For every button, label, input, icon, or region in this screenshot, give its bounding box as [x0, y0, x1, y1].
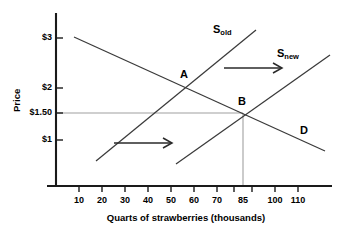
supply-old-curve-line [96, 30, 256, 161]
x-tick-label-30: 30 [115, 196, 135, 205]
demand-curve-label: D [300, 125, 308, 136]
supply-demand-chart: $3 $2 $1.50 $1 Price 10 20 30 40 50 60 7… [0, 0, 337, 239]
supply-old-curve-label-sub: old [220, 28, 231, 37]
x-tick-label-85: 85 [233, 196, 253, 205]
x-tick-label-70: 70 [207, 196, 227, 205]
y-tick-label-2: $2 [18, 83, 52, 92]
y-tick-label-1: $1 [18, 135, 52, 144]
supply-new-curve-label-sub: new [284, 52, 299, 61]
supply-old-curve-label: Sold [213, 24, 232, 35]
x-axis-title: Quarts of strawberries (thousands) [56, 213, 316, 223]
supply-new-curve-line [176, 55, 330, 164]
x-tick-label-10: 10 [69, 196, 89, 205]
x-tick-label-20: 20 [92, 196, 112, 205]
point-label-a: A [180, 69, 188, 80]
x-tick-label-50: 50 [161, 196, 181, 205]
x-tick-label-110: 110 [288, 196, 308, 205]
supply-new-curve-label: Snew [277, 48, 299, 59]
x-tick-label-60: 60 [184, 196, 204, 205]
shift-arrow-upper-icon [224, 63, 282, 73]
x-tick-label-40: 40 [138, 196, 158, 205]
point-label-b: B [238, 96, 246, 107]
x-tick-label-100: 100 [265, 196, 285, 205]
y-axis-title: Price [12, 89, 22, 112]
y-tick-label-3: $3 [18, 33, 52, 42]
